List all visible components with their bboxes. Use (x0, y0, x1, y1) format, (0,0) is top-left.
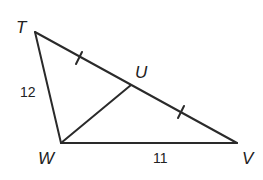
vertex-label-v: V (242, 149, 255, 168)
segment-tv (35, 32, 237, 143)
diagram-canvas: T U W V 12 11 (0, 0, 263, 180)
vertex-label-w: W (38, 149, 56, 168)
measure-wv: 11 (153, 150, 168, 166)
triangle-diagram: T U W V 12 11 (0, 0, 263, 180)
measure-tw: 12 (20, 84, 36, 100)
vertex-label-t: T (16, 18, 28, 37)
segment-tw (35, 32, 61, 143)
segment-wu (61, 85, 131, 143)
vertex-label-u: U (135, 63, 148, 82)
